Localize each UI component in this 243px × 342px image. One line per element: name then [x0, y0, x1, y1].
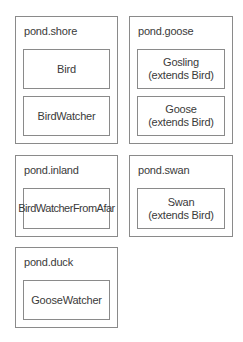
class-birdwatcherfromafar: BirdWatcherFromAfar [23, 188, 110, 229]
class-extends: (extends Bird) [148, 116, 214, 129]
package-pond-shore: pond.shore Bird BirdWatcher [15, 16, 118, 144]
class-name: Gosling [163, 56, 199, 69]
class-extends: (extends Bird) [148, 69, 214, 82]
package-pond-swan: pond.swan Swan (extends Bird) [129, 155, 233, 237]
class-name: GooseWatcher [31, 294, 102, 307]
class-bird: Bird [23, 49, 110, 89]
package-title: pond.shore [24, 25, 77, 37]
class-goose: Goose (extends Bird) [137, 96, 225, 136]
package-title: pond.inland [24, 164, 79, 176]
class-gosling: Gosling (extends Bird) [137, 49, 225, 89]
class-birdwatcher: BirdWatcher [23, 96, 110, 136]
class-goosewatcher: GooseWatcher [23, 280, 110, 320]
package-pond-duck: pond.duck GooseWatcher [15, 247, 118, 328]
class-name: BirdWatcherFromAfar [18, 202, 114, 215]
class-extends: (extends Bird) [148, 209, 214, 222]
class-name: Goose [165, 103, 196, 116]
package-pond-inland: pond.inland BirdWatcherFromAfar [15, 155, 118, 237]
package-title: pond.duck [24, 256, 73, 268]
class-swan: Swan (extends Bird) [137, 188, 225, 229]
package-title: pond.swan [138, 164, 189, 176]
class-name: Swan [168, 196, 195, 209]
class-name: BirdWatcher [38, 110, 96, 123]
package-pond-goose: pond.goose Gosling (extends Bird) Goose … [129, 16, 233, 144]
package-title: pond.goose [138, 25, 194, 37]
class-name: Bird [57, 63, 76, 76]
